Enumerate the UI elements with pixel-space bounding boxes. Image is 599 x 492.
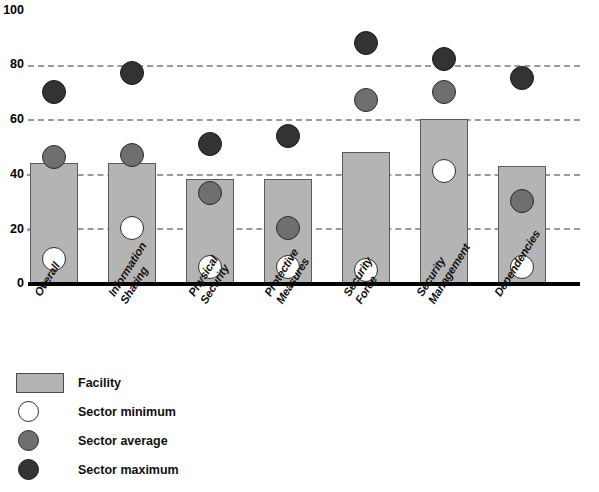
x-label-overall: Overall <box>32 260 63 299</box>
x-label-security-management: SecurityManagement <box>414 234 473 306</box>
x-label-dependencies: Dependencies <box>492 228 544 299</box>
white-circle-swatch-icon <box>18 401 39 422</box>
legend-swatch-sector-average-wrap <box>10 430 72 451</box>
x-label-overall-line1: Overall <box>32 260 62 298</box>
legend-label-facility: Facility <box>72 376 121 390</box>
chart-root: 100 80 60 40 20 0 <box>0 0 599 492</box>
legend-item-facility: Facility <box>10 368 270 397</box>
legend-label-sector-average: Sector average <box>72 434 168 448</box>
chart-legend: Facility Sector minimum Sector average S… <box>10 368 270 484</box>
x-label-information-sharing: InformationSharing <box>106 240 161 306</box>
legend-swatch-facility-wrap <box>10 373 72 393</box>
legend-label-sector-minimum: Sector minimum <box>72 405 176 419</box>
x-label-dependencies-line1: Dependencies <box>492 228 542 298</box>
bar-swatch-icon <box>16 373 64 393</box>
legend-item-sector-minimum: Sector minimum <box>10 397 270 426</box>
legend-swatch-sector-maximum-wrap <box>10 459 72 480</box>
x-label-physical-security: PhysicalSecurity <box>186 254 233 307</box>
legend-swatch-sector-minimum-wrap <box>10 401 72 422</box>
gray-circle-swatch-icon <box>18 430 39 451</box>
x-label-protective-measures: ProtectiveMeasures <box>262 247 313 307</box>
legend-item-sector-average: Sector average <box>10 426 270 455</box>
x-label-security-force: SecurityForce <box>341 255 387 307</box>
legend-label-sector-maximum: Sector maximum <box>72 463 179 477</box>
dark-circle-swatch-icon <box>18 459 39 480</box>
legend-item-sector-maximum: Sector maximum <box>10 455 270 484</box>
